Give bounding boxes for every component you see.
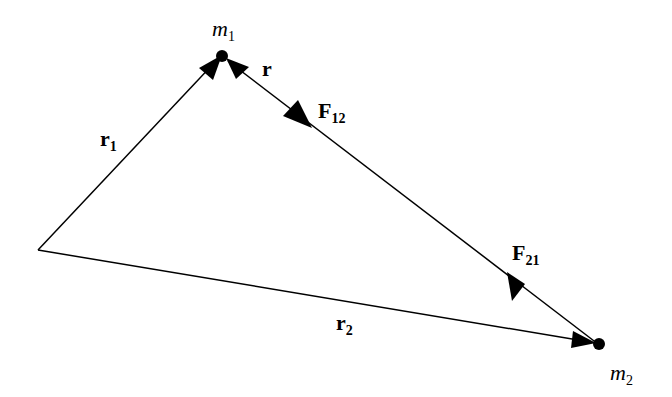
arrowhead-F21-icon: [507, 272, 525, 301]
label-F21-base: F: [512, 240, 525, 265]
vector-r: [228, 61, 598, 344]
label-m2: m2: [610, 362, 633, 388]
label-r1-sub: 1: [110, 139, 117, 154]
label-F21-sub: 21: [525, 253, 539, 268]
label-r1-base: r: [100, 126, 110, 151]
label-m1: m1: [212, 18, 235, 44]
arrowhead-F12-icon: [283, 100, 312, 128]
label-m2-sub: 2: [626, 373, 633, 388]
label-m1-sub: 1: [228, 29, 235, 44]
mass-m2-dot: [593, 338, 605, 350]
label-m2-base: m: [610, 360, 626, 385]
label-m1-base: m: [212, 16, 228, 41]
label-F12-sub: 12: [331, 111, 345, 126]
label-r2-base: r: [336, 310, 346, 335]
vector-r2: [38, 250, 590, 342]
label-r2: r2: [336, 312, 353, 338]
label-r: r: [262, 58, 272, 80]
mass-m1-dot: [216, 50, 228, 62]
label-F12: F12: [318, 100, 345, 126]
vector-r1: [38, 62, 215, 250]
label-r1: r1: [100, 128, 117, 154]
label-r-base: r: [262, 56, 272, 81]
diagram-canvas: m1 r F12 r1 F21 r2 m2: [0, 0, 672, 397]
label-r2-sub: 2: [346, 323, 353, 338]
arrowhead-r-icon: [226, 58, 249, 79]
label-F12-base: F: [318, 98, 331, 123]
label-F21: F21: [512, 242, 539, 268]
